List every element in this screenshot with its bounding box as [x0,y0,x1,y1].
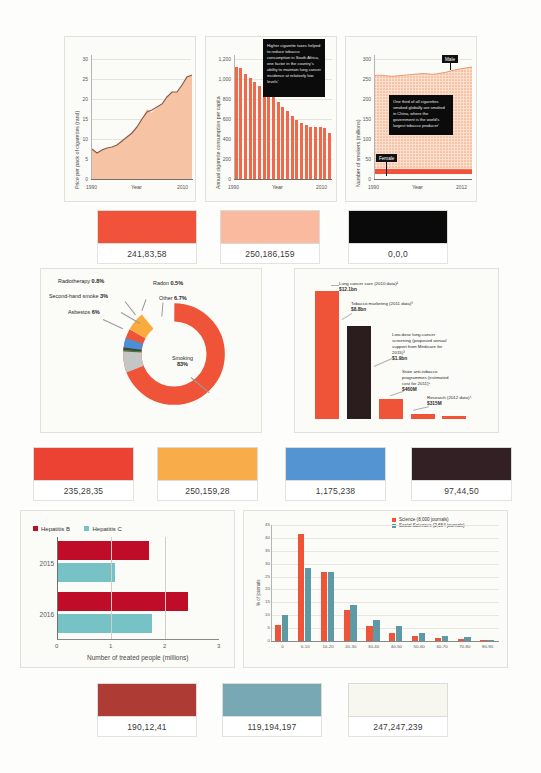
chart-lung-cancer-spending: Lung cancer care (2010 data)² $12.1bn To… [294,268,499,433]
bar [57,541,149,560]
bar [239,68,242,179]
bar [315,291,339,419]
bar [379,399,403,419]
color-chip [97,683,197,717]
color-chip [157,447,258,481]
xtick: 30-40 [362,644,385,649]
swatch-1-3: 97,44,50 [411,447,512,501]
ytick: 25 [73,76,88,82]
ytick: 30 [258,561,270,566]
swatch-0-2: 0,0,0 [348,210,448,264]
xtick: 1 [109,643,112,649]
ytick: 15 [258,599,270,604]
xtick: 3 [217,643,220,649]
bar [272,97,275,179]
chart-journals-distribution: Science (8,000 journals) Social Sciences… [243,510,508,668]
swatch-2-1: 119,194,197 [222,683,322,737]
chart-number-of-smokers: Number of smokers (millions) 300 250 200… [345,36,477,202]
ytick: 1,000 [212,76,231,82]
swatch-1-0: 235,28,35 [33,447,134,501]
smokers-callout: One third of all cigarettes smoked globa… [389,95,453,135]
ytick: 1,200 [212,56,231,62]
ytick: 300 [353,56,371,62]
legend-swatch-icon [33,526,38,531]
swatch-1-1: 250,159,28 [157,447,258,501]
ytick: 25 [258,574,270,579]
ytick: 30 [73,56,88,62]
color-chip [348,210,448,244]
ytick: 200 [353,96,371,102]
color-chip [348,683,448,717]
chart-lung-cancer-causes: Radiotherapy 0.8% Second-hand smoke 3% A… [40,268,262,433]
color-label: 247,247,239 [348,717,448,737]
color-chip [33,447,134,481]
spend-value: $315M [427,401,442,406]
ytick: 0 [212,176,231,182]
donut-label-smoking: Smoking 83% [172,355,193,367]
bar [253,82,256,179]
ytick: 15 [73,116,88,122]
legend-item-science: Science (8,000 journals) [392,517,465,522]
donut-label-radiotherapy: Radiotherapy 0.8% [58,278,104,284]
spend-value: $460M [402,387,417,392]
bar [323,128,326,179]
swatch-1-2: 1,175,238 [285,447,386,501]
swatch-2-0: 190,12,41 [97,683,197,737]
hepatitis-bars-plot [57,537,219,639]
journals-yticks: 051015202530354045 [258,525,270,641]
ytick: 800 [212,96,231,102]
slice-label: Radiotherapy [58,278,90,284]
ytick: 40 [258,535,270,540]
spend-text: Lung cancer care (2010 data)² [339,281,398,286]
price-chart-xlabel: Year [131,184,142,190]
bar [57,563,115,582]
xtick: 70-80 [453,644,476,649]
bar [298,534,304,641]
spend-text: Research (2012 data)⁴ [427,395,471,400]
xtick: 20-30 [339,644,362,649]
ytick: 100 [353,136,371,142]
bar [328,572,334,641]
bar [57,592,188,611]
bar [309,127,312,179]
color-label: 190,12,41 [97,717,197,737]
bar [347,326,371,419]
ytick: 0 [73,176,88,182]
legend-swatch-icon [84,526,89,531]
ytick: 50 [353,156,371,162]
color-label: 241,83,58 [97,244,197,264]
chart-hepatitis-treatment: Hepatitis B Hepatitis C 0 1 2 3 Number o… [20,510,235,668]
ytick: 150 [353,116,371,122]
chart-price-per-pack: Price per pack of cigarettes (rand) 30 2… [64,36,196,202]
color-label: 97,44,50 [411,481,512,501]
bar [396,626,402,641]
bar [328,133,331,179]
ytick: 10 [73,136,88,142]
ytick: 45 [258,522,270,527]
bar [277,102,280,179]
slice-value: 6% [92,309,100,315]
spend-text: Low-dose lung-cancer screening (proposed… [392,332,446,355]
color-chip [411,447,512,481]
slice-value: 6.7% [174,295,187,301]
price-area-plot [91,55,193,179]
ytick: 5 [258,625,270,630]
legend-swatch-icon [392,518,396,522]
bar [300,123,303,179]
slice-value: 0.5% [170,280,183,286]
bar [389,633,395,641]
bar [305,568,311,641]
ytick: 0 [353,176,371,182]
ytick: 35 [258,548,270,553]
bar [286,111,289,179]
bar [319,127,322,179]
xtick: 1990 [368,184,379,190]
color-label: 250,186,159 [220,244,320,264]
hepatitis-legend: Hepatitis B Hepatitis C [33,517,132,535]
xtick: 2 [163,643,166,649]
bar [442,416,466,419]
group-label-2015: 2015 [34,560,54,567]
bar [282,615,288,641]
slice-label: Radon [153,280,169,286]
color-chip [285,447,386,481]
